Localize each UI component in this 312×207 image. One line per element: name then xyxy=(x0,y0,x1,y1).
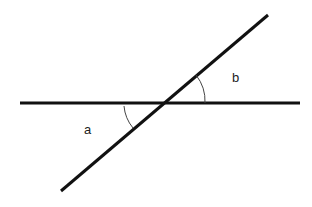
angle-arc-a xyxy=(124,106,133,128)
angle-label-a: a xyxy=(84,122,91,137)
diagram-canvas: b a xyxy=(0,0,312,207)
angle-arc-b xyxy=(196,75,205,103)
angle-diagram xyxy=(0,0,312,207)
angle-label-b: b xyxy=(232,70,239,85)
